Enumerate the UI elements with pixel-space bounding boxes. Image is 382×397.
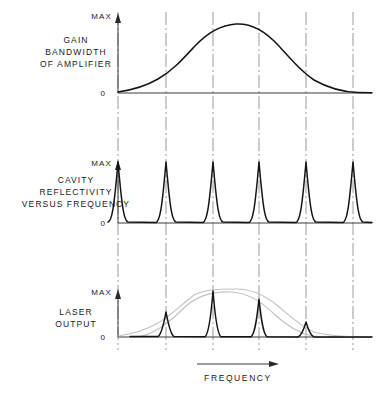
cavity-reflectivity-curve <box>108 162 372 223</box>
gain-zero-label: 0 <box>100 89 106 98</box>
mode-lines-group <box>118 12 353 350</box>
gain-panel-label-line3: OF AMPLIFIER <box>40 59 112 69</box>
frequency-axis-label: FREQUENCY <box>204 373 272 383</box>
gain-bandwidth-curve <box>118 24 372 93</box>
laser-mode-figure: 0 MAX GAIN BANDWIDTH OF AMPLIFIER 0 MAX … <box>0 0 382 397</box>
frequency-axis-caption-group: FREQUENCY <box>197 361 279 383</box>
gain-panel-label-line2: BANDWIDTH <box>45 47 106 57</box>
laser-panel-label-line1: LASER <box>59 307 92 317</box>
laser-zero-label: 0 <box>100 333 106 342</box>
cavity-panel-label-line3: VERSUS FREQUENCY <box>22 199 130 209</box>
laser-max-label: MAX <box>91 288 112 297</box>
gain-max-label: MAX <box>91 12 112 21</box>
cavity-panel-label-line2: REFLECTIVITY <box>39 187 112 197</box>
gain-panel-label-line1: GAIN <box>63 35 88 45</box>
cavity-panel-label-line1: CAVITY <box>58 175 95 185</box>
cavity-zero-label: 0 <box>100 219 106 228</box>
gain-y-axis-arrow-icon <box>115 13 121 23</box>
laser-gain-envelope-ghost-inner <box>140 292 330 337</box>
frequency-arrow-icon <box>269 361 279 367</box>
cavity-max-label: MAX <box>91 159 112 168</box>
panel-laser-output: 0 MAX LASER OUTPUT <box>55 288 372 342</box>
laser-y-axis-arrow-icon <box>115 289 121 299</box>
panel-gain-bandwidth: 0 MAX GAIN BANDWIDTH OF AMPLIFIER <box>40 12 372 98</box>
panel-cavity-reflectivity: 0 MAX CAVITY REFLECTIVITY VERSUS FREQUEN… <box>22 159 372 228</box>
laser-panel-label-line2: OUTPUT <box>55 319 97 329</box>
figure-canvas: 0 MAX GAIN BANDWIDTH OF AMPLIFIER 0 MAX … <box>0 0 382 397</box>
